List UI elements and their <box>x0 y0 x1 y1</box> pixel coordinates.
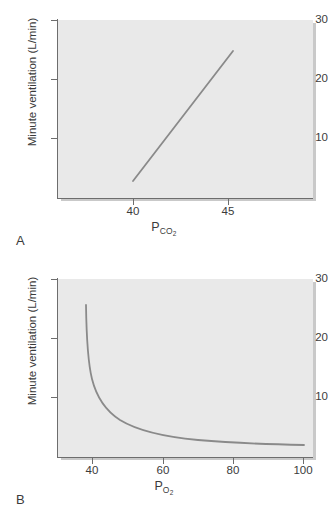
x-axis-title-a-sub-text: CO <box>160 226 173 236</box>
y-tick-mark-b-10 <box>51 397 57 398</box>
x-tick-label-b-60: 60 <box>143 465 183 477</box>
panel-label-a: A <box>16 233 25 248</box>
y-tick-mark-b-30 <box>51 279 57 280</box>
x-tick-label-b-100: 100 <box>283 465 323 477</box>
x-axis-title-a-main: P <box>151 220 159 234</box>
x-axis-line-a <box>57 198 313 199</box>
data-line-a <box>58 20 313 198</box>
x-axis-title-b-sub-text: O <box>163 485 170 495</box>
x-tick-label-a-40: 40 <box>113 206 153 218</box>
data-curve-b <box>58 279 313 457</box>
y-tick-mark-a-10 <box>51 138 57 139</box>
x-tick-label-a-45: 45 <box>208 206 248 218</box>
y-tick-mark-b-20 <box>51 338 57 339</box>
x-axis-title-a-sub: CO2 <box>160 226 177 236</box>
panel-b: 30 20 10 40 60 80 100 Minute ventilation… <box>0 259 328 518</box>
y-axis-title-b: Minute ventilation (L/min) <box>26 246 38 436</box>
x-axis-title-b-sub2: 2 <box>170 489 174 496</box>
y-tick-mark-a-20 <box>51 79 57 80</box>
x-axis-line-b <box>57 457 313 458</box>
figure-ventilation-responses: 30 20 10 40 45 Minute ventilation (L/min… <box>0 0 328 518</box>
x-axis-title-a-sub2: 2 <box>173 230 177 237</box>
x-axis-title-b: PO2 <box>0 479 328 493</box>
panel-label-b: B <box>16 492 25 507</box>
x-tick-label-b-40: 40 <box>72 465 112 477</box>
x-axis-title-b-sub: O2 <box>163 485 174 495</box>
y-axis-title-a: Minute ventilation (L/min) <box>26 0 38 177</box>
panel-a: 30 20 10 40 45 Minute ventilation (L/min… <box>0 0 328 259</box>
x-tick-label-b-80: 80 <box>213 465 253 477</box>
x-axis-title-b-main: P <box>155 479 163 493</box>
x-axis-title-a: PCO2 <box>0 220 328 234</box>
y-tick-mark-a-30 <box>51 20 57 21</box>
